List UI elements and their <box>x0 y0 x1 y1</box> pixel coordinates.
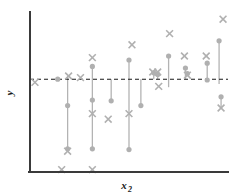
data-point-dot <box>138 103 143 108</box>
data-point-cross <box>181 53 188 60</box>
data-point-cross <box>166 30 173 37</box>
data-point-dot <box>90 146 95 151</box>
data-point-cross <box>65 73 72 80</box>
data-point-dot <box>126 147 131 152</box>
y-axis-label: y <box>3 90 15 97</box>
fitted-dot-markers-group <box>55 38 224 152</box>
data-point-dot <box>109 98 114 103</box>
data-point-dot <box>55 77 60 82</box>
data-point-cross <box>129 41 136 48</box>
data-point-dot <box>65 103 70 108</box>
data-point-dot <box>205 61 210 66</box>
stem-lines-group <box>68 41 221 150</box>
data-point-cross <box>89 54 96 61</box>
x-axis-label-subscript: 2 <box>127 185 132 194</box>
data-point-dot <box>166 53 171 58</box>
data-point-dot <box>218 94 223 99</box>
data-point-cross <box>105 116 112 123</box>
data-point-dot <box>90 97 95 102</box>
data-point-dot <box>216 38 221 43</box>
data-point-dot <box>126 57 131 62</box>
x-axis-label: x <box>120 179 127 191</box>
data-point-cross <box>220 16 227 23</box>
data-point-cross <box>155 83 162 90</box>
scatter-plot-figure: y x 2 <box>0 0 232 196</box>
data-point-dot <box>90 64 95 69</box>
data-point-dot <box>183 65 188 70</box>
chart-canvas: y x 2 <box>0 0 232 196</box>
data-point-dot <box>205 77 210 82</box>
data-point-cross <box>32 79 39 86</box>
data-point-cross <box>77 74 84 81</box>
data-point-cross <box>203 53 210 60</box>
